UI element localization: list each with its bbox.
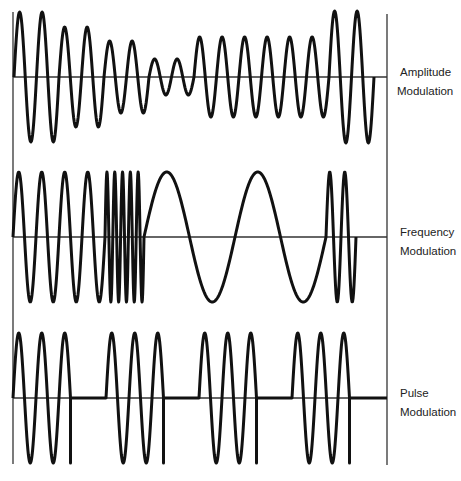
modulation-diagram	[0, 0, 461, 481]
pm-label-line2: Modulation	[400, 405, 456, 419]
fm-label-line1: Frequency	[400, 225, 454, 239]
am-label-line1: Amplitude	[400, 65, 451, 79]
frequency-modulation-panel	[13, 172, 387, 302]
fm-label-line2: Modulation	[400, 244, 456, 258]
am-label-line2: Modulation	[397, 84, 453, 98]
amplitude-modulation-panel	[13, 11, 387, 143]
pulse-modulation-panel	[13, 333, 387, 463]
pm-label-line1: Pulse	[400, 386, 429, 400]
